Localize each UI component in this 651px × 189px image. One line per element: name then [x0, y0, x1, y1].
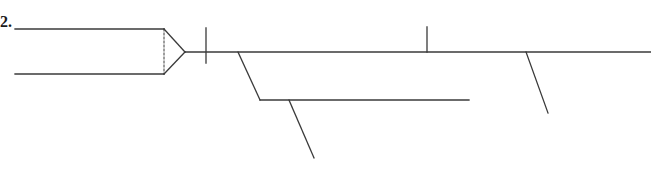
branch-diagonal: [238, 52, 260, 100]
right-diagonal: [526, 52, 548, 113]
branch-sub-diagonal: [289, 100, 314, 158]
arrow-top-edge: [164, 29, 185, 52]
diagram-canvas: 2.: [0, 0, 651, 189]
arrow-bottom-edge: [164, 52, 185, 74]
sentence-diagram: [0, 0, 651, 189]
